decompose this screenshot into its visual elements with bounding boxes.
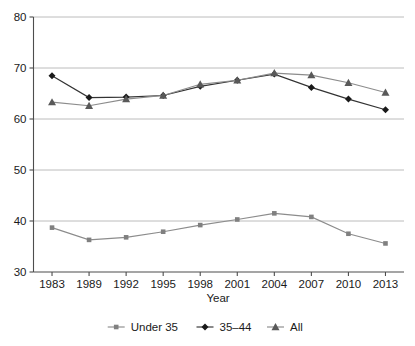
square-marker xyxy=(346,231,351,236)
y-tick-label: 60 xyxy=(14,113,27,125)
y-tick-label: 40 xyxy=(14,215,27,227)
y-tick-label: 70 xyxy=(14,62,27,74)
y-tick-label: 50 xyxy=(14,164,27,176)
x-tick-label: 2010 xyxy=(336,278,362,290)
square-marker xyxy=(309,215,314,220)
y-tick-label: 80 xyxy=(14,11,27,23)
x-tick-label: 1989 xyxy=(76,278,102,290)
square-marker xyxy=(124,235,129,240)
x-axis-title: Year xyxy=(206,292,229,304)
chart-canvas: 304050607080 198319891992199519982001200… xyxy=(0,0,415,346)
x-tick-label: 2007 xyxy=(299,278,325,290)
x-tick-label: 1992 xyxy=(113,278,139,290)
line-chart: 304050607080 198319891992199519982001200… xyxy=(0,0,415,346)
x-tick-label: 2004 xyxy=(262,278,288,290)
legend-label: Under 35 xyxy=(131,321,178,333)
square-marker xyxy=(235,217,240,222)
legend-label: All xyxy=(290,321,303,333)
square-marker xyxy=(198,223,203,228)
x-tick-label: 1983 xyxy=(39,278,65,290)
square-marker xyxy=(50,225,55,230)
square-marker xyxy=(383,241,388,246)
x-tick-label: 2013 xyxy=(373,278,399,290)
x-tick-label: 2001 xyxy=(224,278,250,290)
square-marker xyxy=(114,325,119,330)
square-marker xyxy=(161,229,166,234)
square-marker xyxy=(272,211,277,216)
x-tick-label: 1995 xyxy=(150,278,176,290)
legend-label: 35–44 xyxy=(220,321,253,333)
square-marker xyxy=(87,238,92,243)
y-tick-label: 30 xyxy=(14,266,27,278)
x-tick-label: 1998 xyxy=(187,278,213,290)
